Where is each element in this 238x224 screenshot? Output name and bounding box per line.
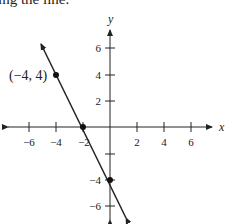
line-graph: −6 −4 −2 2 4 6 6 4 2 −4 −6 x y (−4, 4) <box>0 0 238 224</box>
x-tick-label: 4 <box>161 136 167 148</box>
x-axis-label: x <box>218 120 225 134</box>
x-tick-label: −4 <box>50 136 62 148</box>
graph-line <box>41 44 126 218</box>
y-tick-label: −6 <box>89 200 101 212</box>
y-tick-label: 2 <box>96 95 102 107</box>
y-tick-label: 6 <box>96 42 102 54</box>
point-x-intercept <box>80 124 86 130</box>
y-axis-label: y <box>107 12 114 26</box>
x-tick-label: −6 <box>23 136 35 148</box>
y-tick-label: −4 <box>89 174 101 186</box>
point-neg4-4 <box>53 72 59 78</box>
x-tick-label: 2 <box>134 136 140 148</box>
x-tick-label: 6 <box>188 136 194 148</box>
point-y-intercept <box>107 177 113 183</box>
point-label: (−4, 4) <box>9 68 48 84</box>
y-tick-label: 4 <box>96 69 102 81</box>
